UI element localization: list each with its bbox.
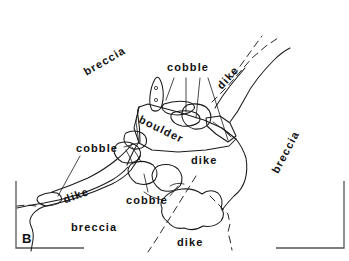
contact-right-upper [222,139,247,210]
figure-panel-b: breccia cobble dike boulder breccia cobb… [0,0,349,261]
dashed-trace-upper-b [212,38,278,102]
leader-cobble-center-a [144,174,148,192]
leader-cobble-top-c [196,78,200,118]
label-breccia-bottom-left: breccia [71,222,117,233]
label-cobble-left: cobble [76,143,118,154]
clast-lower-left-dike [37,192,62,206]
blob-top-notch [170,183,184,186]
contact-lower-left [30,156,140,251]
cobble-clast-top-left [162,101,194,115]
dashed-trace-lower-right [210,196,232,250]
clast-dot-a [154,86,157,89]
clast-dot-b [154,98,157,101]
cobble-left-facet-2 [126,150,133,164]
label-cobble-center: cobble [126,195,168,206]
frame-bracket-right [276,181,344,248]
label-cobble-top: cobble [167,62,209,73]
panel-letter: B [22,232,31,245]
contact-right-to-top [230,48,290,122]
cobble-facet-line [213,122,231,137]
label-dike-middle-right: dike [191,155,217,166]
leader-cobble-top-a [166,78,174,100]
label-dike-bottom: dike [177,237,203,248]
